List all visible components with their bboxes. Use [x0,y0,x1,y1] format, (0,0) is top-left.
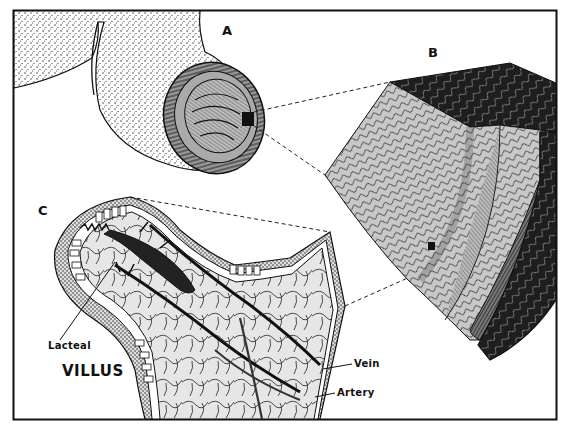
panel-label-c: C [38,204,48,217]
panel-label-b: B [428,46,438,59]
panel-label-a: A [222,24,232,37]
intestine-villus-illustration: A B C Lacteal VILLUS Vein Artery ef [0,0,568,428]
artery-label: Artery [337,388,374,398]
vein-label: Vein [354,359,380,369]
lacteal-label: Lacteal [48,341,91,351]
villus-title: VILLUS [62,364,124,379]
panel-c-villus [55,197,353,419]
villus-marker [428,242,435,250]
panel-a-intestine [14,11,277,185]
sample-notch [242,112,254,126]
panel-b-wall-block [325,63,556,360]
